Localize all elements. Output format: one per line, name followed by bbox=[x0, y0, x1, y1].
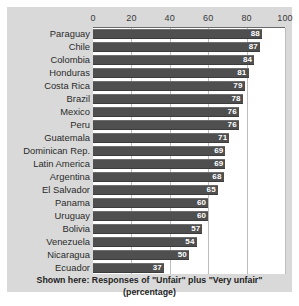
x-axis-tick-label: 100 bbox=[277, 13, 293, 23]
bar-value-label: 71 bbox=[93, 133, 229, 143]
bar-row: 57 bbox=[93, 224, 285, 234]
bar-row: 84 bbox=[93, 55, 285, 65]
bar-row: 69 bbox=[93, 146, 285, 156]
category-label: Brazil bbox=[8, 94, 90, 104]
category-label: Argentina bbox=[8, 172, 90, 182]
category-label: Venezuela bbox=[8, 237, 90, 247]
bar-row: 60 bbox=[93, 198, 285, 208]
bar-value-label: 79 bbox=[93, 81, 245, 91]
y-axis-category-labels: ParaguayChileColombiaHondurasCosta RicaB… bbox=[8, 27, 90, 273]
bar-value-label: 81 bbox=[93, 68, 249, 78]
bar-row: 54 bbox=[93, 237, 285, 247]
category-label: Paraguay bbox=[8, 29, 90, 39]
bar-row: 37 bbox=[93, 263, 285, 273]
bar-value-label: 69 bbox=[93, 146, 225, 156]
bars-layer: 88878481797876767169696865606057545037 bbox=[93, 27, 285, 273]
bar-value-label: 54 bbox=[93, 237, 197, 247]
category-label: Ecuador bbox=[8, 263, 90, 273]
category-label: Honduras bbox=[8, 68, 90, 78]
category-label: El Salvador bbox=[8, 185, 90, 195]
bar-row: 81 bbox=[93, 68, 285, 78]
bar-row: 50 bbox=[93, 250, 285, 260]
bar-value-label: 88 bbox=[93, 29, 262, 39]
bar-value-label: 68 bbox=[93, 172, 224, 182]
bar-value-label: 76 bbox=[93, 120, 239, 130]
bar-value-label: 87 bbox=[93, 42, 260, 52]
bar-value-label: 57 bbox=[93, 224, 202, 234]
bar-value-label: 60 bbox=[93, 198, 208, 208]
bar-row: 71 bbox=[93, 133, 285, 143]
x-axis-tick-label: 60 bbox=[203, 13, 213, 23]
category-label: Costa Rica bbox=[8, 81, 90, 91]
bar-row: 68 bbox=[93, 172, 285, 182]
bar-row: 76 bbox=[93, 107, 285, 117]
x-axis-tick-label: 40 bbox=[165, 13, 175, 23]
category-label: Bolivia bbox=[8, 224, 90, 234]
bar-value-label: 84 bbox=[93, 55, 254, 65]
x-axis-tick-label: 0 bbox=[90, 13, 95, 23]
bar-chart-figure: 020406080100 ParaguayChileColombiaHondur… bbox=[0, 0, 299, 306]
category-label: Peru bbox=[8, 120, 90, 130]
bar-row: 87 bbox=[93, 42, 285, 52]
category-label: Panama bbox=[8, 198, 90, 208]
bar-row: 69 bbox=[93, 159, 285, 169]
x-axis-tick-label: 80 bbox=[241, 13, 251, 23]
category-label: Nicaragua bbox=[8, 250, 90, 260]
bar-row: 65 bbox=[93, 185, 285, 195]
bar-row: 88 bbox=[93, 29, 285, 39]
bar-value-label: 76 bbox=[93, 107, 239, 117]
category-label: Chile bbox=[8, 42, 90, 52]
bar-value-label: 37 bbox=[93, 263, 164, 273]
bar-row: 78 bbox=[93, 94, 285, 104]
category-label: Guatemala bbox=[8, 133, 90, 143]
category-label: Dominican Rep. bbox=[8, 146, 90, 156]
bar-value-label: 78 bbox=[93, 94, 243, 104]
category-label: Latin America bbox=[8, 159, 90, 169]
x-axis-tick-mark bbox=[285, 40, 286, 43]
x-axis-tick-labels: 020406080100 bbox=[93, 13, 285, 26]
category-label: Uruguay bbox=[8, 211, 90, 221]
bar-value-label: 60 bbox=[93, 211, 208, 221]
bar-row: 76 bbox=[93, 120, 285, 130]
bar-value-label: 50 bbox=[93, 250, 189, 260]
category-label: Mexico bbox=[8, 107, 90, 117]
bar-row: 60 bbox=[93, 211, 285, 221]
bar-row: 79 bbox=[93, 81, 285, 91]
x-axis-tick-label: 20 bbox=[126, 13, 136, 23]
bar-value-label: 65 bbox=[93, 185, 218, 195]
chart-caption: Shown here: Responses of "Unfair" plus "… bbox=[14, 275, 285, 298]
bar-value-label: 69 bbox=[93, 159, 225, 169]
category-label: Colombia bbox=[8, 55, 90, 65]
